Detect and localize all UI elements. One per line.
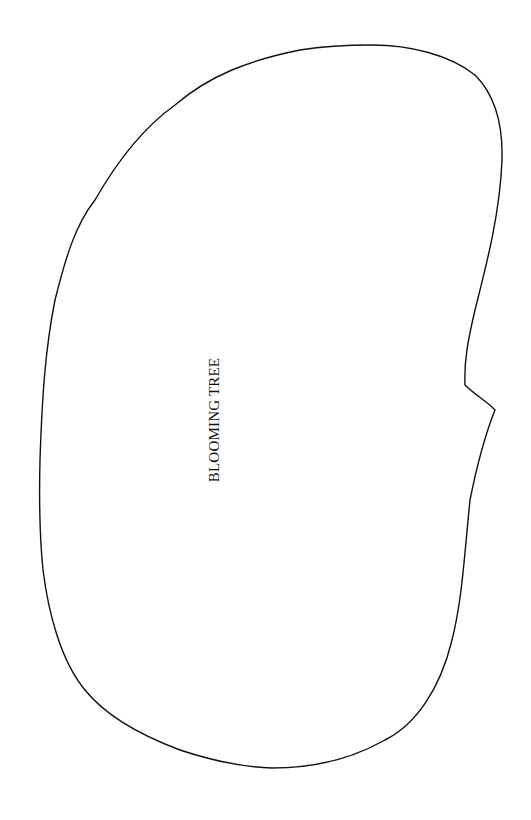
diagram-label: BLOOMING TREE — [206, 358, 223, 482]
blob-outline-path — [40, 45, 502, 768]
shape-outline — [0, 0, 531, 820]
